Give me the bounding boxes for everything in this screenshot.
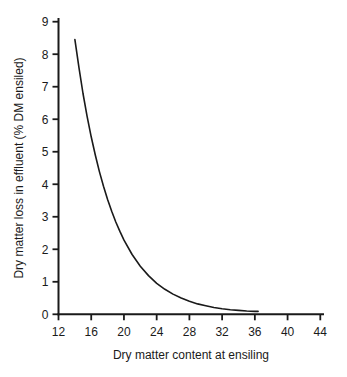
- chart-canvas: Dry matter content at ensiling Dry matte…: [0, 0, 347, 377]
- series-layer: [75, 40, 258, 312]
- x-tick-label: 28: [183, 325, 197, 339]
- y-tick-label: 0: [42, 308, 49, 322]
- x-axis-title: Dry matter content at ensiling: [113, 348, 269, 362]
- x-tick-label: 20: [117, 325, 131, 339]
- x-tick-label: 12: [52, 325, 66, 339]
- y-tick-label: 8: [42, 48, 49, 62]
- y-tick-label: 6: [42, 113, 49, 127]
- y-tick-label: 3: [42, 210, 49, 224]
- y-tick-label: 2: [42, 243, 49, 257]
- y-tick-label: 4: [42, 178, 49, 192]
- x-tick-label: 44: [314, 325, 328, 339]
- axes-layer: 1216202428323640440123456789: [42, 15, 327, 339]
- x-tick-label: 24: [150, 325, 164, 339]
- x-tick-label: 32: [215, 325, 229, 339]
- x-tick-label: 36: [248, 325, 262, 339]
- y-axis-title: Dry matter loss in effluent (% DM ensile…: [12, 57, 26, 278]
- y-tick-label: 7: [42, 80, 49, 94]
- y-tick-label: 1: [42, 275, 49, 289]
- dry-matter-loss-curve: [75, 40, 258, 312]
- x-tick-label: 40: [281, 325, 295, 339]
- y-tick-label: 9: [42, 15, 49, 29]
- chart-figure: Dry matter content at ensiling Dry matte…: [0, 0, 347, 377]
- x-tick-label: 16: [85, 325, 99, 339]
- y-tick-label: 5: [42, 145, 49, 159]
